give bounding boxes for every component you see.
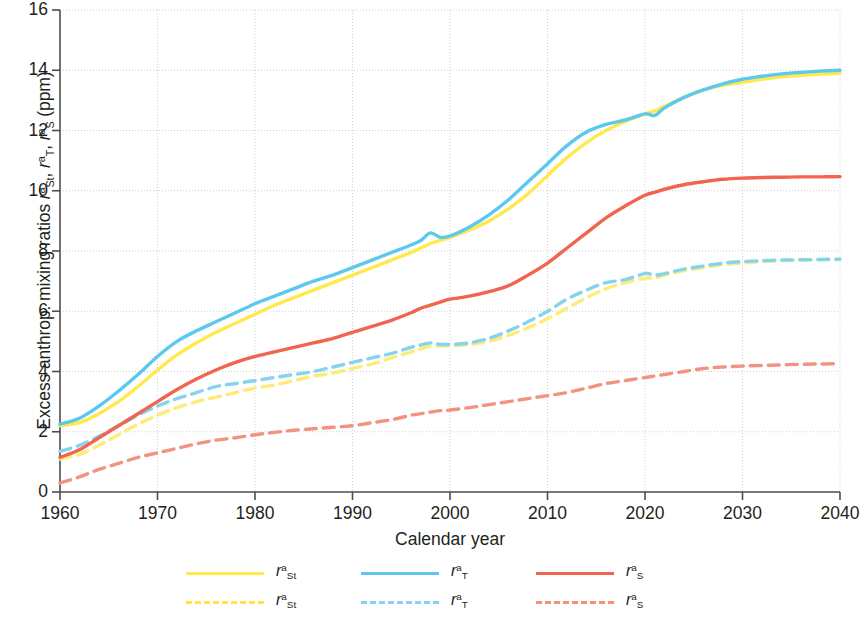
legend-swatch-st-dash [186,601,264,604]
legend-item-t-solid[interactable]: raT [361,563,511,585]
y-tick-label-10: 10 [12,182,48,200]
legend-label-st-dash: raSt [276,591,296,610]
legend-label-t-solid: raT [451,562,468,581]
series-line-5 [60,364,840,483]
x-tick-label-1960: 1960 [25,505,95,523]
x-axis-title: Calendar year [60,529,840,550]
y-tick-label-16: 16 [12,1,48,19]
legend-label-s-solid: raS [626,562,643,581]
legend-item-s-solid[interactable]: raS [536,563,686,585]
y-tick-label-4: 4 [12,363,48,381]
legend-swatch-t-dash [361,601,439,604]
y-tick-label-14: 14 [12,61,48,79]
legend-item-s-dash[interactable]: raS [536,592,686,614]
legend-label-s-dash: raS [626,591,643,610]
series-line-1 [60,73,840,425]
chart-legend: raStraTraSraStraTraS [186,563,706,619]
legend-swatch-t-solid [361,572,439,575]
x-tick-label-1990: 1990 [318,505,388,523]
x-tick-label-1980: 1980 [220,505,290,523]
legend-item-st-dash[interactable]: raSt [186,592,336,614]
y-axis-symbol-t: raT [34,150,54,168]
y-tick-label-0: 0 [12,483,48,501]
legend-item-st-solid[interactable]: raSt [186,563,336,585]
x-tick-label-2020: 2020 [610,505,680,523]
x-tick-label-2010: 2010 [513,505,583,523]
legend-label-t-dash: raT [451,591,468,610]
x-tick-label-2030: 2030 [708,505,778,523]
y-tick-label-2: 2 [12,423,48,441]
legend-swatch-s-solid [536,572,614,575]
x-tick-label-2040: 2040 [805,505,864,523]
y-axis-sep-1: , [34,168,54,178]
legend-item-t-dash[interactable]: raT [361,592,511,614]
y-tick-label-6: 6 [12,302,48,320]
y-tick-label-12: 12 [12,122,48,140]
y-tick-label-8: 8 [12,242,48,260]
y-axis-sep-2: , [34,140,54,150]
legend-label-st-solid: raSt [276,562,296,581]
legend-swatch-st-solid [186,572,264,575]
x-tick-label-1970: 1970 [123,505,193,523]
legend-swatch-s-dash [536,601,614,604]
x-tick-label-2000: 2000 [415,505,485,523]
